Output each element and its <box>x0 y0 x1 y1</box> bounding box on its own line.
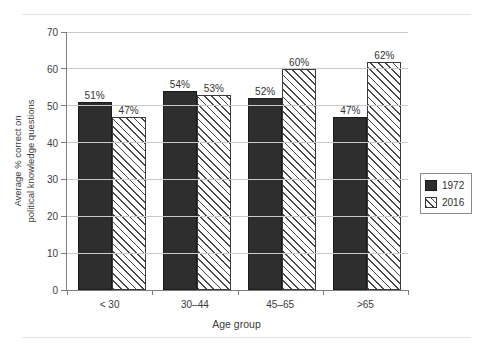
legend-swatch-1972-icon <box>425 180 437 191</box>
y-axis-tick <box>61 68 67 69</box>
cutoff-text-above <box>24 0 214 8</box>
plot-inner: 51%47%54%53%52%60%47%62% 010203040506070… <box>66 32 408 290</box>
y-gridline <box>67 216 408 217</box>
y-gridline <box>67 68 408 69</box>
legend-label-2016: 2016 <box>442 197 464 208</box>
bar-1972-4565[interactable]: 52% <box>248 98 282 290</box>
y-axis-label: 40 <box>47 137 58 148</box>
bar-value-label: 52% <box>255 86 275 97</box>
y-gridline <box>67 142 408 143</box>
y-axis-title: Average % correct on political knowledge… <box>12 56 38 266</box>
chart-legend: 1972 2016 <box>420 173 472 214</box>
y-axis-title-line-1: Average % correct on <box>12 115 23 206</box>
bar-value-label: 62% <box>374 50 394 61</box>
bar-1972-3044[interactable]: 54% <box>163 91 197 290</box>
y-axis-tick <box>61 253 67 254</box>
bar-value-label: 53% <box>204 83 224 94</box>
bar-2016-65[interactable]: 62% <box>367 62 401 291</box>
bar-group: 47%62% <box>333 32 401 290</box>
bar-chart-figure: Average % correct on political knowledge… <box>0 16 489 334</box>
x-axis-label: < 30 <box>100 299 120 310</box>
x-axis-tick <box>238 290 239 295</box>
y-gridline <box>67 179 408 180</box>
y-axis-label: 0 <box>52 285 58 296</box>
legend-label-1972: 1972 <box>442 180 464 191</box>
y-axis-tick <box>61 179 67 180</box>
plot-area: 51%47%54%53%52%60%47%62% 010203040506070… <box>66 32 407 306</box>
y-axis-label: 50 <box>47 100 58 111</box>
bar-group: 54%53% <box>163 32 231 290</box>
x-axis-tick <box>152 290 153 295</box>
bar-2016-3044[interactable]: 53% <box>197 95 231 290</box>
bars-layer: 51%47%54%53%52%60%47%62% <box>67 32 408 290</box>
x-axis-label: >65 <box>357 299 374 310</box>
y-axis-label: 60 <box>47 63 58 74</box>
legend-item-1972[interactable]: 1972 <box>425 178 466 192</box>
x-axis-title: Age group <box>66 318 407 330</box>
y-gridline <box>67 253 408 254</box>
bar-value-label: 54% <box>170 79 190 90</box>
y-axis-tick <box>61 216 67 217</box>
bar-value-label: 47% <box>119 105 139 116</box>
page-rule-top <box>22 14 471 15</box>
x-axis-label: 45–65 <box>266 299 294 310</box>
bar-value-label: 47% <box>340 105 360 116</box>
y-axis-label: 70 <box>47 27 58 38</box>
legend-item-2016[interactable]: 2016 <box>425 195 466 209</box>
y-axis-label: 20 <box>47 211 58 222</box>
x-axis-tick <box>408 290 409 295</box>
bar-group: 51%47% <box>78 32 146 290</box>
x-axis-tick <box>67 290 68 295</box>
bar-group: 52%60% <box>248 32 316 290</box>
legend-swatch-2016-icon <box>425 197 437 208</box>
x-axis-tick <box>323 290 324 295</box>
y-axis-tick <box>61 142 67 143</box>
y-axis-tick <box>61 105 67 106</box>
y-gridline <box>67 105 408 106</box>
y-axis-tick <box>61 32 67 33</box>
bar-value-label: 51% <box>85 90 105 101</box>
y-gridline <box>67 32 408 33</box>
y-axis-title-line-2: political knowledge questions <box>25 99 36 222</box>
y-axis-label: 30 <box>47 174 58 185</box>
page-rule-bottom <box>22 337 471 338</box>
y-axis-label: 10 <box>47 248 58 259</box>
bar-value-label: 60% <box>289 57 309 68</box>
bar-1972-30[interactable]: 51% <box>78 102 112 290</box>
x-axis-label: 30–44 <box>181 299 209 310</box>
